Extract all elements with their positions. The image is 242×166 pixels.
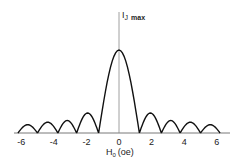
diffraction-chart: -6-4-20246 IJmax H0(oe) xyxy=(0,0,242,166)
x-tick-label: -4 xyxy=(50,137,58,147)
x-tick-label: -6 xyxy=(17,137,25,147)
x-tick-label: 0 xyxy=(116,137,121,147)
x-tick-label: -2 xyxy=(82,137,90,147)
x-tick-label: 4 xyxy=(182,137,187,147)
x-axis-label: H0(oe) xyxy=(106,147,134,158)
x-ticks: -6-4-20246 xyxy=(17,137,219,147)
x-tick-label: 2 xyxy=(149,137,154,147)
y-axis-label: IJmax xyxy=(122,10,145,21)
x-tick-label: 6 xyxy=(214,137,219,147)
